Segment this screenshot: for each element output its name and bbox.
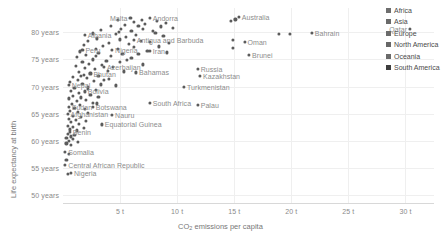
data-point: [137, 52, 140, 55]
legend-item-north-america[interactable]: North America: [386, 40, 440, 49]
point-label: Nigeria: [74, 169, 97, 176]
legend-item-oceania[interactable]: Oceania: [386, 52, 440, 61]
data-point: [134, 33, 137, 36]
data-point: [85, 76, 88, 79]
data-point: [67, 97, 70, 100]
data-point: [164, 21, 167, 24]
point-label: Bahamas: [139, 69, 169, 76]
x-tick-label: 15 t: [228, 208, 240, 215]
data-point: [87, 39, 90, 42]
data-point: [69, 89, 72, 92]
gridline-horizontal: [63, 141, 434, 142]
data-point: [88, 62, 91, 65]
data-point: [114, 32, 117, 35]
x-tick-label: 25 t: [342, 208, 354, 215]
data-point: [196, 68, 199, 71]
legend-item-africa[interactable]: Africa: [386, 6, 440, 15]
data-point: [110, 48, 113, 51]
scatter-chart-root: MaltaAndorraAustraliaQatarBahrainAlbania…: [0, 0, 441, 234]
data-point: [95, 47, 98, 50]
data-point: [148, 17, 151, 20]
data-point: [148, 49, 151, 52]
data-point: [277, 32, 280, 35]
data-point: [107, 41, 110, 44]
data-point: [97, 95, 100, 98]
data-point: [69, 121, 72, 124]
data-point: [97, 74, 100, 77]
data-point: [80, 96, 83, 99]
data-point: [168, 42, 171, 45]
data-point: [66, 124, 69, 127]
legend-swatch-icon: [386, 8, 391, 13]
data-point: [93, 68, 96, 71]
data-point: [101, 44, 104, 47]
data-point: [182, 85, 185, 88]
y-axis-title: Life expectancy at birth: [9, 121, 18, 198]
point-label: Botswana: [96, 104, 127, 111]
data-point: [66, 173, 69, 176]
data-point: [243, 40, 246, 43]
legend-label: Africa: [394, 6, 412, 15]
data-point: [109, 24, 112, 27]
data-point: [95, 54, 98, 57]
legend-item-south-america[interactable]: South America: [386, 63, 440, 72]
y-tick-label: 70 years: [16, 83, 59, 90]
data-point: [89, 72, 92, 75]
data-point: [99, 29, 102, 32]
data-point: [81, 60, 84, 63]
data-point: [162, 34, 165, 37]
data-point: [73, 133, 76, 136]
data-point: [96, 102, 99, 105]
data-point: [247, 53, 250, 56]
legend-label: Europe: [394, 29, 417, 38]
data-point: [95, 88, 98, 91]
data-point: [112, 65, 115, 68]
data-point: [96, 37, 99, 40]
point-label: Equatorial Guinea: [105, 121, 162, 128]
y-tick-label: 80 years: [16, 29, 59, 36]
data-point: [103, 78, 106, 81]
data-point: [67, 117, 70, 120]
data-point: [76, 78, 79, 81]
data-point: [91, 106, 94, 109]
data-point: [77, 122, 80, 125]
x-axis-title: CO2 emissions per capita: [0, 222, 441, 231]
data-point: [229, 19, 232, 22]
data-point: [82, 43, 85, 46]
data-point: [81, 49, 84, 52]
data-point: [91, 58, 94, 61]
data-point: [71, 102, 74, 105]
point-label: Oman: [248, 38, 267, 45]
data-point: [82, 126, 85, 129]
data-point: [107, 77, 110, 80]
data-point: [74, 118, 77, 121]
data-point: [72, 114, 75, 117]
data-point: [109, 55, 112, 58]
legend-item-europe[interactable]: Europe: [386, 29, 440, 38]
data-point: [144, 22, 147, 25]
data-point: [132, 45, 135, 48]
data-point: [83, 67, 86, 70]
data-point: [80, 115, 83, 118]
data-point: [73, 86, 76, 89]
data-point: [105, 59, 108, 62]
legend-swatch-icon: [386, 54, 391, 59]
data-point: [116, 18, 119, 21]
data-point: [171, 26, 174, 29]
point-label: Palau: [201, 101, 219, 108]
legend: AfricaAsiaEuropeNorth AmericaOceaniaSout…: [386, 6, 440, 72]
data-point: [83, 33, 86, 36]
data-point: [72, 75, 75, 78]
data-point: [121, 52, 124, 55]
data-point: [137, 24, 140, 27]
data-point: [89, 93, 92, 96]
point-label: Somalia: [68, 148, 94, 155]
data-point: [65, 159, 68, 162]
data-point: [140, 18, 143, 21]
gridline-vertical: [177, 8, 178, 203]
legend-item-asia[interactable]: Asia: [386, 17, 440, 26]
point-label: South Africa: [153, 99, 191, 106]
legend-label: South America: [394, 63, 440, 72]
data-point: [120, 27, 123, 30]
data-point: [155, 19, 158, 22]
